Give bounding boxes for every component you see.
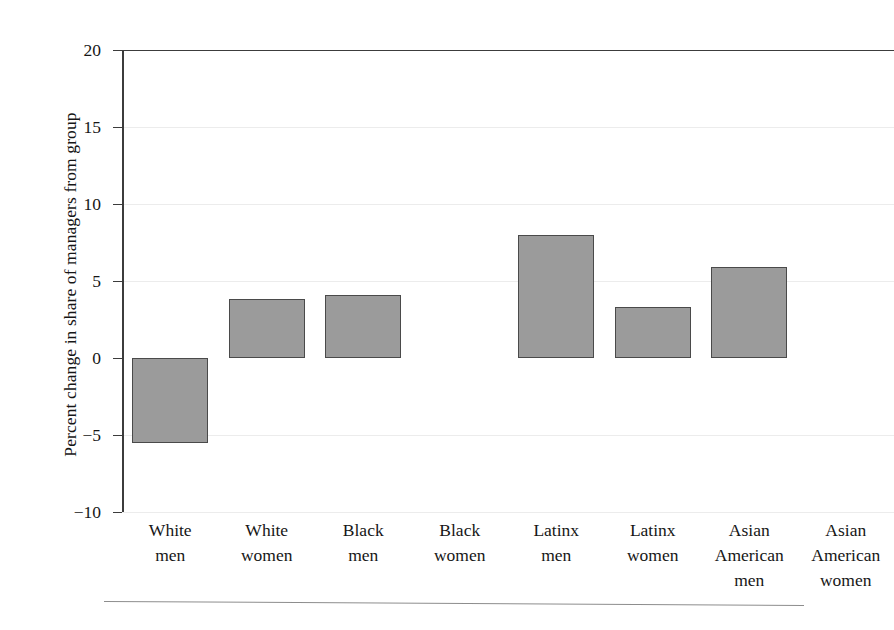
y-axis-tick bbox=[113, 127, 122, 128]
x-axis-tick-label-line: men bbox=[701, 568, 798, 593]
x-axis-tick-label-line: Black bbox=[315, 518, 412, 543]
bar bbox=[229, 299, 305, 358]
y-axis-tick bbox=[113, 50, 122, 51]
y-axis-tick-label: 15 bbox=[45, 117, 101, 138]
x-axis-tick-label-line: women bbox=[605, 543, 702, 568]
x-axis-tick-label-line: Black bbox=[412, 518, 509, 543]
y-axis-tick-label: −10 bbox=[45, 502, 101, 523]
x-axis-tick-label-line: Latinx bbox=[605, 518, 702, 543]
bar-chart-figure: Percent change in share of managers from… bbox=[0, 0, 894, 630]
x-axis-tick-label-line: men bbox=[508, 543, 605, 568]
y-axis-tick-label: 5 bbox=[45, 271, 101, 292]
x-axis-tick-label: Blackwomen bbox=[412, 518, 509, 568]
x-axis-tick-label: Latinxwomen bbox=[605, 518, 702, 568]
gridline bbox=[122, 512, 894, 513]
zero-reference-line bbox=[120, 50, 894, 51]
y-axis-tick bbox=[113, 435, 122, 436]
y-axis-tick bbox=[113, 358, 122, 359]
x-axis-tick-label-line: White bbox=[219, 518, 316, 543]
y-axis-tick bbox=[113, 204, 122, 205]
bar bbox=[518, 235, 594, 358]
y-axis-tick-label-group: 20151050−5−10 bbox=[45, 0, 101, 630]
x-axis-tick-label-line: Asian bbox=[701, 518, 798, 543]
y-axis-tick bbox=[113, 512, 122, 513]
x-axis-tick-label-line: American bbox=[798, 543, 894, 568]
y-axis-tick-label: 0 bbox=[45, 348, 101, 369]
x-axis-tick-label-group: WhitemenWhitewomenBlackmenBlackwomenLati… bbox=[122, 518, 894, 610]
plot-area bbox=[122, 50, 894, 512]
x-axis-tick-label-line: American bbox=[701, 543, 798, 568]
bar bbox=[615, 307, 691, 358]
x-axis-tick-label: Whitemen bbox=[122, 518, 219, 568]
x-axis-tick-label-line: women bbox=[412, 543, 509, 568]
x-axis-tick-label: AsianAmericanmen bbox=[701, 518, 798, 593]
y-axis-tick-label: 10 bbox=[45, 194, 101, 215]
y-axis-tick-label: 20 bbox=[45, 40, 101, 61]
y-axis-tick bbox=[113, 281, 122, 282]
x-axis-tick-label: AsianAmericanwomen bbox=[798, 518, 894, 593]
x-axis-tick-label-line: men bbox=[315, 543, 412, 568]
x-axis-tick-label-line: women bbox=[219, 543, 316, 568]
x-axis-tick-label: Whitewomen bbox=[219, 518, 316, 568]
x-axis-tick-label-line: Latinx bbox=[508, 518, 605, 543]
gridline bbox=[122, 204, 894, 205]
gridline bbox=[122, 127, 894, 128]
bar bbox=[132, 358, 208, 443]
x-axis-tick-label-line: women bbox=[798, 568, 894, 593]
gridline bbox=[122, 435, 894, 436]
y-axis-spine bbox=[122, 50, 124, 512]
x-axis-tick-label: Blackmen bbox=[315, 518, 412, 568]
bar bbox=[325, 295, 401, 358]
x-axis-tick-label-line: White bbox=[122, 518, 219, 543]
y-axis-tick-label: −5 bbox=[45, 425, 101, 446]
bar bbox=[711, 267, 787, 358]
x-axis-tick-label-line: Asian bbox=[798, 518, 894, 543]
x-axis-tick-label-line: men bbox=[122, 543, 219, 568]
x-axis-tick-label: Latinxmen bbox=[508, 518, 605, 568]
